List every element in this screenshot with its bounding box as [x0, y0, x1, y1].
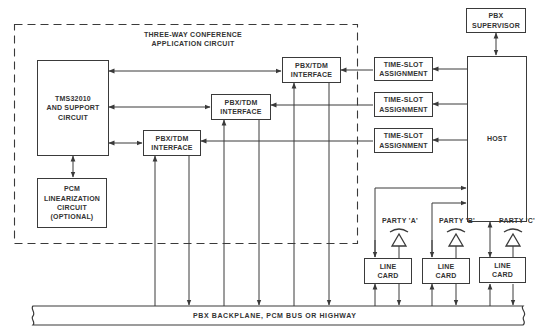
pcm-label-line1: PCM — [44, 184, 100, 193]
pcm-label-line4: (OPTIONAL) — [44, 212, 100, 221]
line-card-c: LINE CARD — [479, 257, 526, 283]
party-c-label: PARTY 'C' — [494, 216, 540, 225]
time-slot-3-label-line2: ASSIGNMENT — [379, 141, 428, 150]
telephone-icon-party-a — [390, 229, 408, 246]
time-slot-2-label-line2: ASSIGNMENT — [379, 105, 428, 114]
host-label: HOST — [487, 134, 507, 143]
telephone-icons — [390, 229, 522, 246]
pbx-tdm-2-label-line1: PBX/TDM — [220, 98, 261, 107]
host-block: HOST — [467, 56, 527, 222]
pbx-supervisor-label-line2: SUPERVISOR — [472, 21, 520, 30]
line-card-a-label-line2: CARD — [377, 271, 398, 280]
party-a-label: PARTY 'A' — [378, 216, 422, 225]
pbx-supervisor-label-line1: PBX — [472, 11, 520, 20]
line-card-c-label-line1: LINE — [492, 261, 513, 270]
telephone-icon-party-b — [447, 229, 465, 246]
pcm-linearization-block: PCM LINEARIZATION CIRCUIT (OPTIONAL) — [37, 178, 107, 228]
pbx-tdm-1-label-line1: PBX/TDM — [291, 61, 332, 70]
line-card-c-label-line2: CARD — [492, 270, 513, 279]
dsp-label-line1: TMS32010 — [46, 94, 99, 103]
dsp-block: TMS32010 AND SUPPORT CIRCUIT — [37, 60, 109, 156]
dsp-label-line2: AND SUPPORT — [46, 103, 99, 112]
pbx-supervisor-block: PBX SUPERVISOR — [466, 8, 526, 33]
pbx-tdm-1-label-line2: INTERFACE — [291, 70, 332, 79]
time-slot-assignment-2: TIME-SLOT ASSIGNMENT — [374, 92, 433, 117]
conference-circuit-label-line1: THREE-WAY CONFERENCE — [144, 31, 242, 38]
diagram-wiring — [0, 0, 543, 336]
pbx-tdm-3-label-line1: PBX/TDM — [151, 134, 192, 143]
time-slot-3-label-line1: TIME-SLOT — [379, 131, 428, 140]
time-slot-assignment-1: TIME-SLOT ASSIGNMENT — [374, 57, 433, 81]
time-slot-2-label-line1: TIME-SLOT — [379, 95, 428, 104]
pbx-tdm-interface-1: PBX/TDM INTERFACE — [282, 57, 341, 83]
dsp-label-line3: CIRCUIT — [46, 113, 99, 122]
line-card-a-label-line1: LINE — [377, 262, 398, 271]
bus-label: PBX BACKPLANE, PCM BUS OR HIGHWAY — [193, 312, 356, 319]
conference-circuit-label: THREE-WAY CONFERENCE APPLICATION CIRCUIT — [128, 30, 258, 49]
pbx-tdm-interface-3: PBX/TDM INTERFACE — [143, 130, 201, 156]
time-slot-1-label-line2: ASSIGNMENT — [379, 69, 428, 78]
pbx-tdm-2-label-line2: INTERFACE — [220, 107, 261, 116]
party-b-label: PARTY 'B' — [435, 216, 479, 225]
pbx-tdm-3-label-line2: INTERFACE — [151, 143, 192, 152]
conference-circuit-label-line2: APPLICATION CIRCUIT — [152, 40, 235, 47]
telephone-icon-party-c — [504, 229, 522, 246]
pcm-label-line2: LINEARIZATION — [44, 194, 100, 203]
line-card-b-label-line2: CARD — [435, 271, 456, 280]
time-slot-1-label-line1: TIME-SLOT — [379, 60, 428, 69]
line-card-b-label-line1: LINE — [435, 262, 456, 271]
line-card-a: LINE CARD — [364, 258, 412, 284]
pcm-label-line3: CIRCUIT — [44, 203, 100, 212]
time-slot-assignment-3: TIME-SLOT ASSIGNMENT — [374, 128, 433, 153]
line-card-b: LINE CARD — [422, 258, 470, 284]
pbx-tdm-interface-2: PBX/TDM INTERFACE — [211, 94, 271, 120]
